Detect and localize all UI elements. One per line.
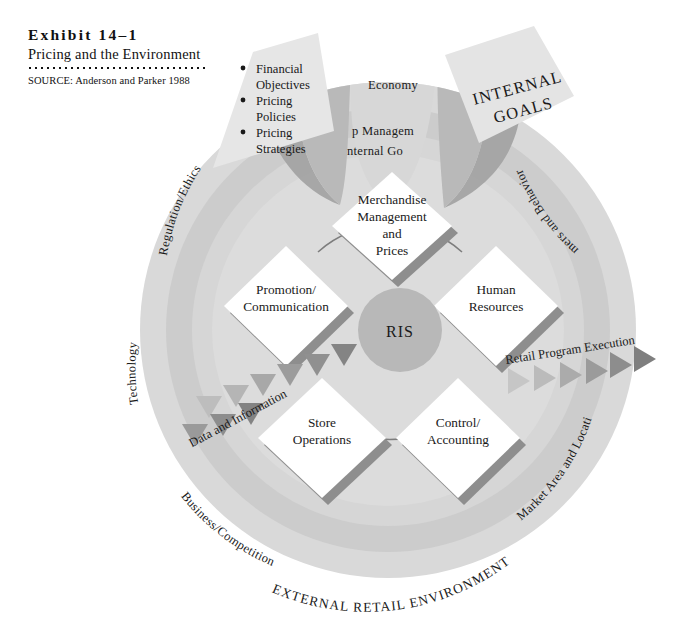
page-root: Exhibit 14–1 Pricing and the Environment… [0,0,686,621]
diamond-line: Accounting [427,432,489,447]
top-management-line-1: p Managem [352,124,414,138]
ring-label-economy: Economy [368,78,418,92]
retail-environment-diagram: Regulation/Ethics Technology Business/Co… [0,0,686,621]
bullet-dot-icon [241,130,246,135]
bullet-3-line-1: Pricing [256,126,293,140]
bullet-dot-icon [241,98,246,103]
diamond-line: Operations [293,432,351,447]
diamond-line: and [382,226,402,241]
diamond-line: Store [308,415,336,430]
top-management-line-2: nternal Go [347,144,403,158]
bullet-dot-icon [241,66,246,71]
diamond-line: Control/ [436,415,481,430]
diamond-line: Promotion/ [256,282,316,297]
diamond-line: Management [357,209,427,224]
diamond-line: Merchandise [358,192,427,207]
bullet-1-line-2: Objectives [256,78,310,92]
diamond-line: Resources [469,299,524,314]
bullet-2-line-1: Pricing [256,94,293,108]
diamond-line: Human [476,282,515,297]
diamond-line: Communication [243,299,329,314]
diamond-line: Prices [376,243,409,258]
bullet-2-line-2: Policies [256,110,296,124]
arrow-triangle [634,346,656,372]
bullet-3-line-2: Strategies [256,142,306,156]
bullet-1-line-1: Financial [256,62,303,76]
ring-label-technology: Technology [124,341,141,406]
ris-label: RIS [386,323,414,340]
